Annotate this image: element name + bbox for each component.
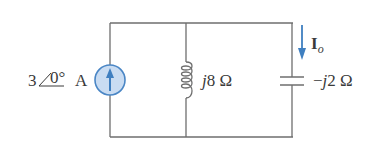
io-subscript: o [318,42,324,56]
source-angle: 0° [50,68,65,87]
capacitor-label: −j2 Ω [313,71,353,90]
source-unit: A [75,71,88,90]
current-source [95,65,125,95]
io-arrow-head-icon [298,48,306,60]
source-label: 3 0° A [28,68,88,90]
inductor: j8 Ω [182,62,233,98]
current-io-indicator: Io [298,25,324,60]
capacitor-sign: − [313,71,323,90]
source-magnitude: 3 [28,71,37,90]
inductor-value: 8 Ω [207,71,232,90]
circuit-diagram: 3 0° A j8 Ω −j2 Ω Io [0,0,373,151]
inductor-label: j8 Ω [200,71,232,90]
inductor-coil-icon [182,62,193,98]
capacitor-value: 2 Ω [327,71,352,90]
io-label: Io [311,34,324,56]
capacitor: −j2 Ω [280,71,353,90]
